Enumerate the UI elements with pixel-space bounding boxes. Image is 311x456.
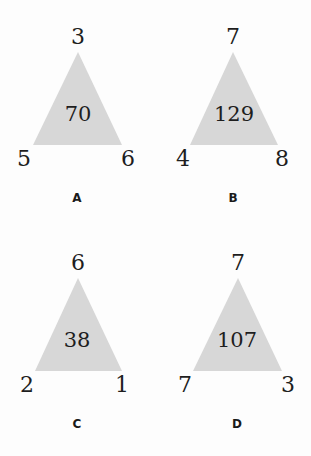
top-number: 6 [71,252,85,274]
center-number: 107 [217,330,257,351]
left-number: 4 [176,148,190,170]
top-number: 3 [71,26,85,48]
triangle-puzzle-c: 6 38 2 1 C [0,228,155,456]
triangle-puzzle-b: 7 129 4 8 B [155,0,310,228]
center-number: 129 [214,104,254,125]
puzzle-label: D [232,418,242,430]
left-number: 7 [178,374,192,396]
top-number: 7 [231,252,245,274]
left-number: 5 [17,148,31,170]
center-number: 70 [65,104,92,125]
triangle-puzzle-d: 7 107 7 3 D [155,228,310,456]
top-number: 7 [226,26,240,48]
right-number: 6 [121,148,135,170]
puzzle-label: C [73,418,82,430]
right-number: 8 [275,148,289,170]
puzzle-label: A [72,192,81,204]
puzzle-label: B [228,192,237,204]
puzzle-page: 3 70 5 6 A 7 129 4 8 B 6 38 2 1 C 7 107 … [0,0,311,456]
right-number: 3 [281,374,295,396]
triangle-puzzle-a: 3 70 5 6 A [0,0,155,228]
right-number: 1 [115,374,129,396]
left-number: 2 [20,374,34,396]
center-number: 38 [64,330,91,351]
